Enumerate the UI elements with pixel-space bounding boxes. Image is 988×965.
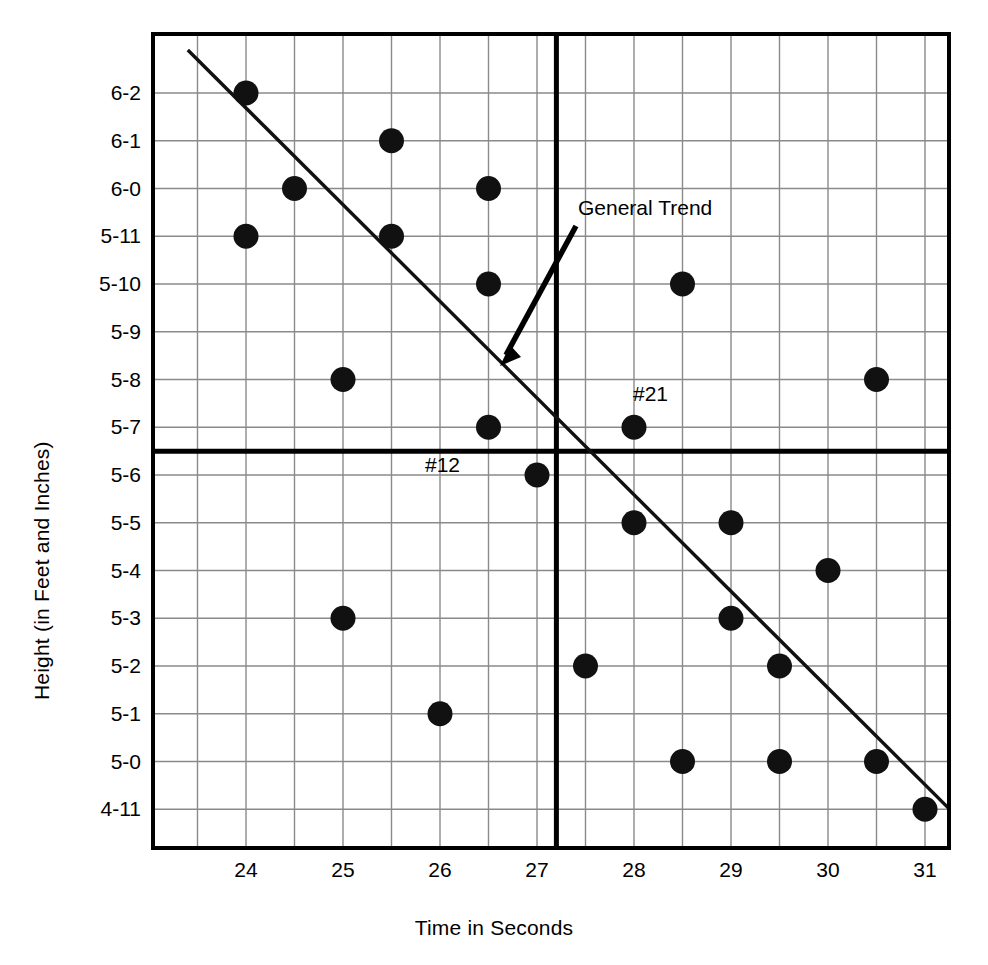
data-point bbox=[476, 176, 501, 201]
y-axis-tick-label: 5-10 bbox=[99, 272, 141, 296]
data-point bbox=[864, 367, 889, 392]
x-axis-tick-label: 30 bbox=[816, 858, 839, 882]
data-point bbox=[331, 606, 356, 631]
data-point bbox=[331, 367, 356, 392]
data-point bbox=[282, 176, 307, 201]
y-axis-tick-label: 5-2 bbox=[111, 654, 141, 678]
general-trend-label: General Trend bbox=[578, 196, 712, 220]
data-point bbox=[719, 606, 744, 631]
x-axis-title: Time in Seconds bbox=[0, 916, 988, 940]
trend-callout-arrow bbox=[500, 226, 576, 366]
y-axis-tick-label: 5-9 bbox=[111, 320, 141, 344]
x-axis-tick-label: 27 bbox=[525, 858, 548, 882]
data-point bbox=[476, 415, 501, 440]
point-label-21: #21 bbox=[633, 382, 668, 406]
x-axis-tick-label: 24 bbox=[234, 858, 257, 882]
callout-arrow-shaft bbox=[506, 226, 576, 355]
y-axis-tick-label: 5-1 bbox=[111, 702, 141, 726]
data-point bbox=[816, 558, 841, 583]
y-axis-title: Height (in Feet and Inches) bbox=[30, 441, 54, 700]
y-axis-tick-label: 5-0 bbox=[111, 750, 141, 774]
reference-lines bbox=[153, 34, 949, 848]
x-axis-tick-label: 25 bbox=[331, 858, 354, 882]
gridlines bbox=[153, 34, 949, 848]
data-point bbox=[767, 749, 792, 774]
data-point bbox=[428, 701, 453, 726]
x-axis-tick-label: 29 bbox=[719, 858, 742, 882]
plot-frame bbox=[153, 34, 949, 848]
data-point bbox=[573, 654, 598, 679]
x-axis-tick-label: 31 bbox=[913, 858, 936, 882]
x-axis-tick-label: 28 bbox=[622, 858, 645, 882]
trend-line bbox=[188, 50, 949, 809]
data-point bbox=[379, 224, 404, 249]
data-point bbox=[234, 81, 259, 106]
y-axis-tick-label: 5-5 bbox=[111, 511, 141, 535]
y-axis-tick-label: 5-3 bbox=[111, 606, 141, 630]
data-point bbox=[719, 510, 744, 535]
data-point bbox=[864, 749, 889, 774]
data-point bbox=[622, 415, 647, 440]
y-axis-tick-label: 5-7 bbox=[111, 415, 141, 439]
data-point bbox=[476, 272, 501, 297]
point-label-12: #12 bbox=[425, 453, 460, 477]
data-point bbox=[670, 749, 695, 774]
y-axis-tick-label: 6-1 bbox=[111, 129, 141, 153]
y-axis-tick-label: 6-0 bbox=[111, 177, 141, 201]
y-axis-tick-label: 4-11 bbox=[101, 797, 141, 821]
data-point bbox=[913, 797, 938, 822]
y-axis-tick-label: 5-11 bbox=[101, 224, 141, 248]
data-point bbox=[622, 510, 647, 535]
plot-canvas bbox=[0, 0, 988, 965]
scatter-plot-figure: Height (in Feet and Inches) Time in Seco… bbox=[0, 0, 988, 965]
data-point bbox=[379, 128, 404, 153]
callout-arrow-head bbox=[500, 345, 521, 366]
x-axis-tick-label: 26 bbox=[428, 858, 451, 882]
general-trend-line bbox=[188, 50, 949, 809]
y-axis-tick-label: 5-8 bbox=[111, 368, 141, 392]
y-axis-tick-label: 5-4 bbox=[111, 559, 141, 583]
data-point bbox=[670, 272, 695, 297]
y-axis-tick-label: 6-2 bbox=[111, 81, 141, 105]
data-point bbox=[234, 224, 259, 249]
data-point bbox=[525, 463, 550, 488]
y-axis-tick-label: 5-6 bbox=[111, 463, 141, 487]
data-point bbox=[767, 654, 792, 679]
